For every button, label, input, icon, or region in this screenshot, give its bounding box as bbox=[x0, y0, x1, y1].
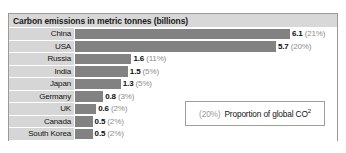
chart-title: Carbon emissions in metric tonnes (billi… bbox=[9, 14, 337, 28]
legend-superscript: 2 bbox=[308, 108, 311, 114]
bar bbox=[75, 54, 131, 65]
bar-value-label: 0.5 (2%) bbox=[95, 128, 124, 140]
legend-description: Proportion of global CO2 bbox=[224, 108, 310, 119]
bar-value-percent: (2%) bbox=[107, 129, 123, 138]
bar-value-percent: (3%) bbox=[118, 92, 134, 101]
bar-value-number: 5.7 bbox=[278, 42, 289, 51]
bar bbox=[75, 129, 93, 140]
bar-row: China6.1 (21%) bbox=[9, 28, 337, 41]
bar bbox=[75, 41, 276, 52]
bar-value-number: 0.8 bbox=[105, 92, 116, 101]
chart-screenshot: Carbon emissions in metric tonnes (billi… bbox=[0, 0, 346, 153]
bar bbox=[75, 104, 96, 115]
bar-row-label: Germany bbox=[9, 91, 75, 104]
bar-row-plot: 1.3 (5%) bbox=[75, 78, 337, 91]
bar-row-label: China bbox=[9, 28, 75, 41]
bar-row-plot: 1.6 (11%) bbox=[75, 53, 337, 66]
bar bbox=[75, 79, 121, 90]
bar-row-plot: 6.1 (21%) bbox=[75, 28, 337, 41]
bar-row-label: India bbox=[9, 66, 75, 79]
bar-row: South Korea0.5 (2%) bbox=[9, 128, 337, 141]
bar-value-number: 6.1 bbox=[292, 29, 303, 38]
bar-value-number: 0.5 bbox=[95, 129, 106, 138]
bar-value-label: 0.8 (3%) bbox=[105, 91, 134, 103]
bar-row: Japan1.3 (5%) bbox=[9, 78, 337, 91]
bar-value-number: 0.6 bbox=[98, 104, 109, 113]
bar-row-plot: 0.5 (2%) bbox=[75, 128, 337, 141]
bar-row-label: South Korea bbox=[9, 128, 75, 141]
bar-value-number: 1.6 bbox=[133, 54, 144, 63]
bar-value-percent: (5%) bbox=[143, 67, 159, 76]
bar bbox=[75, 116, 93, 127]
bar-value-label: 1.3 (5%) bbox=[123, 78, 152, 90]
bar-value-percent: (2%) bbox=[111, 104, 127, 113]
legend-description-text: Proportion of global CO bbox=[224, 109, 307, 119]
bar-value-percent: (20%) bbox=[291, 42, 312, 51]
legend-percent-sample: (20%) bbox=[199, 109, 220, 119]
bar-value-label: 0.6 (2%) bbox=[98, 103, 127, 115]
bar-value-label: 5.7 (20%) bbox=[278, 41, 311, 53]
bar-value-number: 1.5 bbox=[130, 67, 141, 76]
bar-row: Russia1.6 (11%) bbox=[9, 53, 337, 66]
bar-value-percent: (21%) bbox=[305, 29, 326, 38]
bar-value-label: 6.1 (21%) bbox=[292, 28, 325, 40]
bar bbox=[75, 29, 290, 40]
bar-row-label: Russia bbox=[9, 53, 75, 66]
bar-value-percent: (2%) bbox=[107, 117, 123, 126]
bar-row-plot: 5.7 (20%) bbox=[75, 41, 337, 54]
bar-row: USA5.7 (20%) bbox=[9, 41, 337, 54]
bar-value-label: 1.5 (5%) bbox=[130, 66, 159, 78]
bar bbox=[75, 91, 103, 102]
bar-value-percent: (5%) bbox=[136, 79, 152, 88]
bar-row-label: Canada bbox=[9, 116, 75, 129]
legend-callout: (20%) Proportion of global CO2 bbox=[185, 101, 325, 126]
bar-value-label: 0.5 (2%) bbox=[95, 116, 124, 128]
bar-row: India1.5 (5%) bbox=[9, 66, 337, 79]
bar-value-number: 0.5 bbox=[95, 117, 106, 126]
bar-row-label: UK bbox=[9, 103, 75, 116]
bar-row-label: Japan bbox=[9, 78, 75, 91]
bar-value-percent: (11%) bbox=[146, 54, 166, 63]
bar-row-label: USA bbox=[9, 41, 75, 54]
bar bbox=[75, 66, 128, 77]
bar-row-plot: 1.5 (5%) bbox=[75, 66, 337, 79]
bar-value-label: 1.6 (11%) bbox=[133, 53, 166, 65]
bar-value-number: 1.3 bbox=[123, 79, 134, 88]
